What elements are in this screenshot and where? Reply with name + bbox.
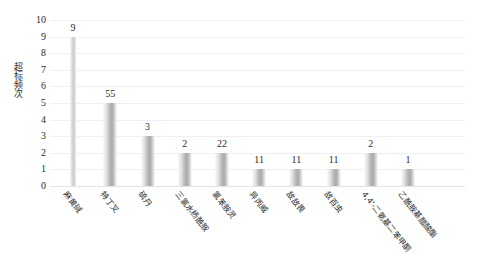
bar[interactable]: [178, 153, 191, 186]
x-tick-label: 硫丹: [136, 190, 153, 208]
x-tick-label: 乙酰胺基醋酸酯: [397, 190, 439, 240]
bar-chart: 超标频次 012345678910 955322211111121 麻黄碱特丁叉…: [0, 0, 497, 278]
bar-value-label: 22: [217, 139, 227, 149]
y-tick-label: 0: [28, 181, 46, 191]
bar-value-label: 11: [292, 155, 302, 165]
bar-value-label: 1: [406, 155, 411, 165]
y-tick-label: 10: [28, 15, 46, 25]
bar-value-label: 11: [329, 155, 339, 165]
y-tick-label: 3: [28, 131, 46, 141]
bar[interactable]: [290, 169, 303, 186]
x-tick-label: 异丙威: [248, 190, 270, 214]
bar[interactable]: [70, 37, 76, 186]
bar[interactable]: [215, 153, 228, 186]
bar-value-label: 3: [145, 122, 150, 132]
bar-value-label: 2: [368, 139, 373, 149]
bars-layer: 955322211111121: [50, 20, 465, 186]
bar[interactable]: [327, 169, 340, 186]
bar[interactable]: [141, 136, 154, 186]
y-tick-label: 6: [28, 81, 46, 91]
y-tick-label: 4: [28, 115, 46, 125]
x-axis-labels: 麻黄碱特丁叉硫丹三氯水杨酰胺氯苯胺灵异丙威敌敌畏敌百虫4,4'-二氨基二苯甲酮乙…: [50, 186, 465, 278]
bar-value-label: 9: [71, 23, 76, 33]
bar-value-label: 55: [105, 89, 115, 99]
x-tick-label: 敌敌畏: [285, 190, 307, 214]
bar-value-label: 11: [254, 155, 264, 165]
bar-value-label: 2: [182, 139, 187, 149]
y-axis-title: 超标频次: [9, 62, 23, 98]
y-tick-label: 8: [28, 48, 46, 58]
bar[interactable]: [402, 169, 415, 186]
y-tick-label: 7: [28, 65, 46, 75]
x-tick-label: 三氯水杨酰胺: [174, 190, 211, 233]
bar[interactable]: [253, 169, 266, 186]
y-tick-label: 9: [28, 32, 46, 42]
y-tick-label: 2: [28, 148, 46, 158]
x-tick-label: 氯苯胺灵: [211, 190, 238, 221]
x-tick-label: 麻黄碱: [62, 190, 84, 214]
bar[interactable]: [104, 103, 117, 186]
x-tick-label: 特丁叉: [99, 190, 121, 214]
y-tick-label: 1: [28, 164, 46, 174]
x-tick-label: 敌百虫: [323, 190, 345, 214]
y-axis-ticks: 012345678910: [28, 0, 46, 278]
bar[interactable]: [364, 153, 377, 186]
y-tick-label: 5: [28, 98, 46, 108]
